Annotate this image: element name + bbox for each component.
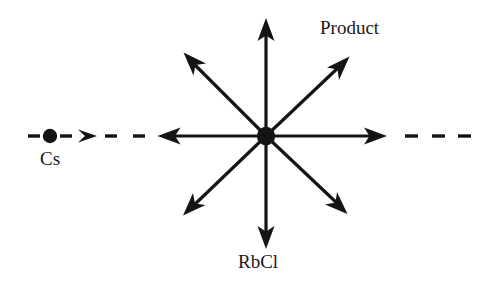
cs-beam-direction-arrow xyxy=(78,130,97,143)
scattering-diagram: Product RbCl Cs xyxy=(0,0,493,285)
arrow-lower-left xyxy=(183,136,266,216)
cs-particle-dot xyxy=(43,129,57,143)
arrow-left xyxy=(158,128,267,145)
arrow-lower-right xyxy=(266,136,348,214)
rbcl-label: RbCl xyxy=(238,252,278,271)
arrow-right xyxy=(266,128,387,145)
arrow-down xyxy=(258,136,275,249)
arrow-upper-right xyxy=(266,57,350,137)
product-label: Product xyxy=(320,18,379,37)
diagram-canvas xyxy=(0,0,493,285)
arrow-up xyxy=(258,18,275,136)
collision-center-hub xyxy=(257,127,275,145)
arrow-upper-left xyxy=(184,53,267,137)
cs-label: Cs xyxy=(40,149,60,168)
